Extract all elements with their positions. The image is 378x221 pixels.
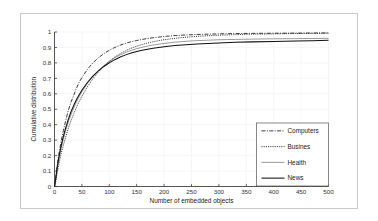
y-tick-labels: 00.10.20.30.40.50.60.70.80.91 <box>43 28 52 190</box>
x-tick-label: 250 <box>186 188 197 195</box>
y-axis-title: Cumulative distribution <box>30 76 37 141</box>
y-tick-label: 0.3 <box>43 136 52 143</box>
y-tick-label: 0 <box>48 183 52 190</box>
x-tick-label: 500 <box>323 188 334 195</box>
figure-canvas: 050100150200250300350400450500 00.10.20.… <box>0 0 378 221</box>
x-tick-label: 400 <box>269 188 280 195</box>
legend-label-computers: Computers <box>288 127 319 135</box>
x-tick-label: 50 <box>78 188 85 195</box>
y-tick-label: 0.1 <box>43 167 52 174</box>
x-tick-label: 200 <box>159 188 170 195</box>
legend-label-health: Health <box>288 159 307 166</box>
y-tick-label: 0.9 <box>43 44 52 51</box>
y-tick-label: 0.8 <box>43 59 52 66</box>
x-tick-label: 100 <box>104 188 115 195</box>
x-tick-label: 300 <box>214 188 225 195</box>
y-tick-label: 0.6 <box>43 90 52 97</box>
y-tick-label: 1 <box>48 28 52 35</box>
legend-label-busines: Busines <box>288 143 311 150</box>
x-tick-label: 350 <box>241 188 252 195</box>
x-axis-title: Number of embedded objects <box>150 197 234 205</box>
legend-label-news: News <box>288 174 304 181</box>
chart-legend[interactable]: ComputersBusinesHealthNews <box>257 123 329 186</box>
y-tick-label: 0.7 <box>43 75 52 82</box>
cdf-chart: 050100150200250300350400450500 00.10.20.… <box>0 0 378 221</box>
y-tick-label: 0.2 <box>43 152 52 159</box>
x-tick-label: 150 <box>132 188 143 195</box>
x-tick-labels: 050100150200250300350400450500 <box>53 188 334 195</box>
y-tick-label: 0.4 <box>43 121 52 128</box>
x-tick-label: 450 <box>296 188 307 195</box>
x-tick-label: 0 <box>53 188 57 195</box>
y-tick-label: 0.5 <box>43 105 52 112</box>
